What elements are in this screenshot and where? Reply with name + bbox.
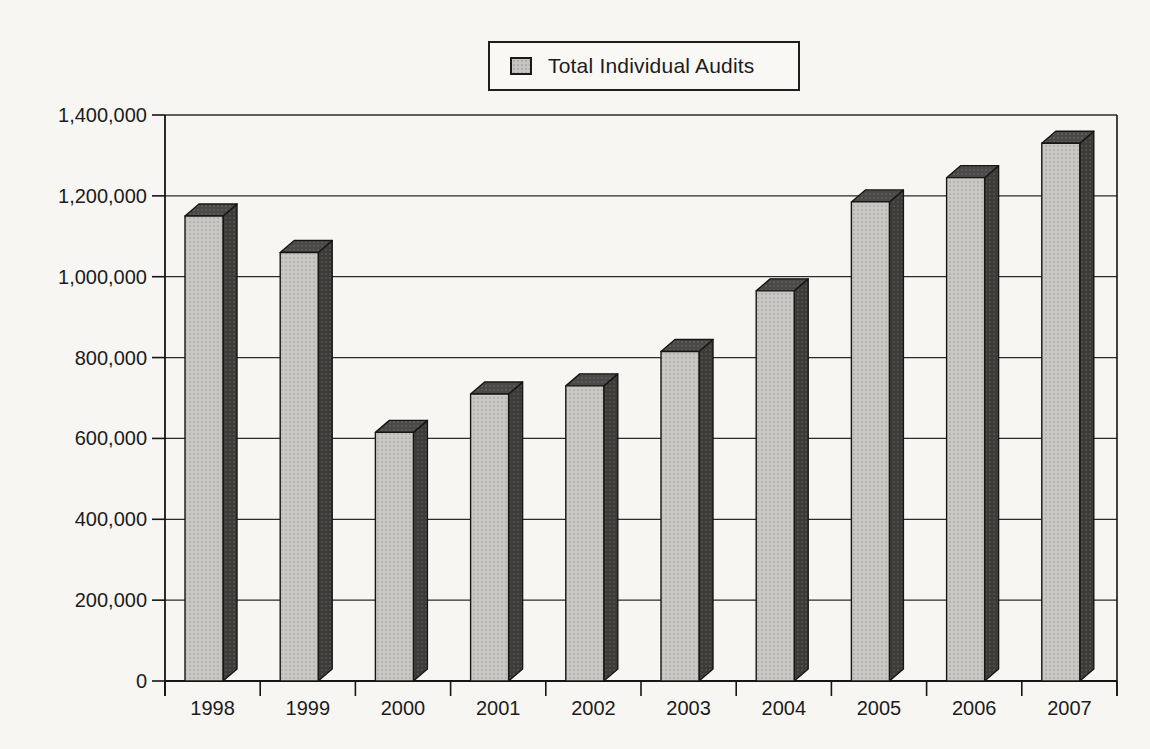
y-axis-tick-label: 400,000 bbox=[75, 508, 147, 530]
x-axis-label: 2006 bbox=[952, 697, 997, 719]
bar-2001 bbox=[471, 382, 523, 681]
bar-front-face bbox=[1042, 143, 1080, 681]
bar-2007 bbox=[1042, 131, 1094, 681]
x-axis-label: 2005 bbox=[857, 697, 902, 719]
bar-side-face bbox=[413, 420, 427, 681]
x-axis-label: 2001 bbox=[476, 697, 521, 719]
bar-side-face bbox=[699, 340, 713, 681]
bar-side-face bbox=[223, 204, 237, 681]
bar-2002 bbox=[566, 374, 618, 681]
bar-front-face bbox=[851, 202, 889, 681]
y-axis-tick-label: 200,000 bbox=[75, 589, 147, 611]
bar-1998 bbox=[185, 204, 237, 681]
total-individual-audits-bar-chart: 0200,000400,000600,000800,0001,000,0001,… bbox=[0, 0, 1150, 749]
bar-2005 bbox=[851, 190, 903, 681]
x-axis-label: 2002 bbox=[571, 697, 616, 719]
bar-front-face bbox=[375, 432, 413, 681]
legend-label: Total Individual Audits bbox=[548, 54, 755, 78]
bar-front-face bbox=[471, 394, 509, 681]
x-axis-label: 2000 bbox=[381, 697, 426, 719]
y-axis-tick-label: 1,000,000 bbox=[58, 266, 147, 288]
x-axis-label: 2004 bbox=[762, 697, 807, 719]
bar-2003 bbox=[661, 340, 713, 681]
x-axis-label: 2003 bbox=[666, 697, 711, 719]
y-axis-tick-label: 1,200,000 bbox=[58, 185, 147, 207]
bar-side-face bbox=[1080, 131, 1094, 681]
bar-side-face bbox=[509, 382, 523, 681]
bar-front-face bbox=[756, 291, 794, 681]
bar-1999 bbox=[280, 240, 332, 681]
legend-swatch-icon bbox=[510, 57, 532, 75]
bar-side-face bbox=[318, 240, 332, 681]
bar-2006 bbox=[947, 166, 999, 681]
bar-front-face bbox=[947, 178, 985, 681]
x-axis-label: 2007 bbox=[1047, 697, 1092, 719]
scanned-chart-page: 0200,000400,000600,000800,0001,000,0001,… bbox=[0, 0, 1150, 749]
x-axis-label: 1998 bbox=[190, 697, 235, 719]
y-axis-tick-label: 1,400,000 bbox=[58, 104, 147, 126]
y-axis-tick-label: 0 bbox=[136, 670, 147, 692]
bar-2000 bbox=[375, 420, 427, 681]
bar-2004 bbox=[756, 279, 808, 681]
bar-front-face bbox=[566, 386, 604, 681]
y-axis-tick-label: 600,000 bbox=[75, 427, 147, 449]
bar-front-face bbox=[185, 216, 223, 681]
x-axis-label: 1999 bbox=[286, 697, 331, 719]
bar-side-face bbox=[889, 190, 903, 681]
bar-front-face bbox=[280, 252, 318, 681]
bar-side-face bbox=[604, 374, 618, 681]
bar-front-face bbox=[661, 352, 699, 681]
bar-side-face bbox=[794, 279, 808, 681]
y-axis-tick-label: 800,000 bbox=[75, 347, 147, 369]
legend: Total Individual Audits bbox=[488, 41, 800, 91]
bar-side-face bbox=[985, 166, 999, 681]
